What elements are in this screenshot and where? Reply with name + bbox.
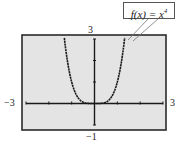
xmin-label: −3 — [4, 98, 15, 108]
ymin-label: −1 — [86, 132, 97, 142]
callout-text: f(x) = x — [131, 8, 164, 20]
graph-figure — [0, 0, 182, 145]
ymax-label: 3 — [88, 25, 93, 35]
xmax-label: 3 — [170, 98, 175, 108]
function-callout: f(x) = x4 — [123, 2, 175, 19]
callout-exponent: 4 — [164, 7, 168, 15]
